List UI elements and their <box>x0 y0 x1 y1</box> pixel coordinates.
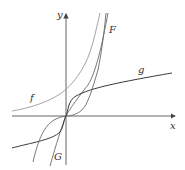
graph-diagram: y x f F g G <box>0 0 185 170</box>
y-axis-label: y <box>56 9 63 20</box>
curve-g-label: g <box>138 64 144 75</box>
curve-G-label: G <box>54 151 62 162</box>
x-axis-label: x <box>170 120 176 131</box>
curve-F-label: F <box>108 24 117 35</box>
curve-g <box>12 73 172 148</box>
curve-f-label: f <box>29 92 36 103</box>
curve-f <box>12 13 100 111</box>
curve-F <box>50 13 108 166</box>
